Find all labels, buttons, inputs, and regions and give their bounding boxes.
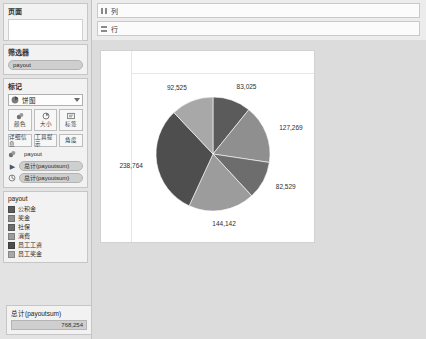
marks-label-label: 标签 — [65, 121, 77, 128]
pie-slice-label: 92,525 — [167, 84, 187, 91]
worksheet-view[interactable]: 83,025127,26982,529144,142238,76492,525 — [100, 50, 315, 243]
legend-item[interactable]: 消费 — [8, 232, 83, 241]
filters-panel: 筛选器 payout — [3, 44, 88, 75]
marks-panel: 标记 饼图 颜色 — [3, 78, 88, 188]
legend-item[interactable]: 员工奖金 — [8, 250, 83, 259]
marks-size-label: 大小 — [40, 121, 52, 128]
legend-item[interactable]: 奖金 — [8, 214, 83, 223]
marks-title: 标记 — [8, 82, 83, 91]
legend-item-label: 社保 — [18, 223, 30, 232]
legend-item-label: 员工工资 — [18, 241, 42, 250]
legend-swatch-icon — [8, 251, 15, 258]
legend-item-label: 员工奖金 — [18, 250, 42, 259]
angle-icon — [8, 174, 17, 182]
rows-shelf-label: 行 — [111, 24, 118, 34]
legend-swatch-icon — [8, 224, 15, 231]
total-value: 768,254 — [11, 320, 87, 330]
pie-slice-label: 127,269 — [279, 124, 303, 131]
filter-pill-payout[interactable]: payout — [8, 60, 83, 70]
marks-card-pill-label[interactable]: ▶ 总计(payoutsum) — [8, 161, 83, 171]
pie-slice-label: 144,142 — [212, 220, 236, 227]
marks-pill-label: payout — [19, 149, 83, 159]
marks-color-label: 颜色 — [14, 121, 26, 128]
marks-angle-label: 角度 — [65, 137, 77, 144]
legend-item[interactable]: 社保 — [8, 223, 83, 232]
label-icon — [67, 112, 75, 120]
marks-detail-button[interactable]: 详细信息 — [8, 134, 32, 147]
pie-slice-label: 82,529 — [276, 183, 296, 190]
color-legend-panel: payout 公积金奖金社保消费员工工资员工奖金 — [3, 191, 88, 263]
marks-pill-label: 总计(payoutsum) — [19, 173, 83, 183]
view-canvas: 83,025127,26982,529144,142238,76492,525 — [92, 40, 426, 339]
marks-tooltip-label: 工具提示 — [35, 134, 57, 148]
filter-pill-label: payout — [13, 61, 31, 70]
mark-type-dropdown[interactable]: 饼图 — [8, 94, 83, 106]
shelf-bar: 列 行 — [92, 0, 426, 40]
mark-buttons-row-2: 详细信息 工具提示 角度 — [8, 134, 83, 147]
legend-item-list: 公积金奖金社保消费员工工资员工奖金 — [8, 205, 83, 259]
marks-pill-label: 总计(payoutsum) — [19, 161, 83, 171]
legend-swatch-icon — [8, 242, 15, 249]
total-measure-card: 总计(payoutsum) 768,254 — [6, 305, 92, 335]
columns-icon — [100, 7, 108, 15]
marks-detail-label: 详细信息 — [9, 134, 31, 148]
legend-item-label: 消费 — [18, 232, 30, 241]
legend-item-label: 公积金 — [18, 205, 36, 214]
pages-shelf-dropzone[interactable] — [8, 19, 83, 41]
total-label: 总计(payoutsum) — [11, 309, 87, 318]
pie-chart[interactable]: 83,025127,26982,529144,142238,76492,525 — [101, 51, 316, 244]
mark-buttons-row-1: 颜色 大小 标签 — [8, 109, 83, 131]
columns-shelf-label: 列 — [111, 6, 118, 16]
label-icon: ▶ — [8, 162, 17, 171]
legend-swatch-icon — [8, 206, 15, 213]
left-sidebar: 页面 筛选器 payout 标记 饼图 — [0, 0, 92, 339]
pages-title: 页面 — [8, 7, 83, 16]
pie-icon — [11, 96, 19, 104]
legend-item[interactable]: 员工工资 — [8, 241, 83, 250]
color-icon — [16, 112, 24, 120]
filters-title: 筛选器 — [8, 48, 83, 57]
pages-panel: 页面 — [3, 3, 88, 41]
marks-card-pill-color[interactable]: payout — [8, 149, 83, 159]
legend-swatch-icon — [8, 233, 15, 240]
size-icon — [42, 112, 50, 120]
columns-shelf[interactable]: 列 — [97, 3, 420, 18]
legend-item-label: 奖金 — [18, 214, 30, 223]
mark-type-label: 饼图 — [22, 95, 36, 105]
rows-icon — [100, 25, 108, 33]
marks-angle-button[interactable]: 角度 — [59, 134, 83, 147]
legend-title: payout — [8, 195, 83, 203]
marks-color-button[interactable]: 颜色 — [8, 109, 32, 131]
marks-tooltip-button[interactable]: 工具提示 — [34, 134, 58, 147]
pie-slice-label: 238,764 — [119, 162, 143, 169]
marks-size-button[interactable]: 大小 — [34, 109, 58, 131]
legend-swatch-icon — [8, 215, 15, 222]
pie-chart-svg[interactable]: 83,025127,26982,529144,142238,76492,525 — [101, 51, 316, 244]
marks-label-button[interactable]: 标签 — [59, 109, 83, 131]
pie-slice-label: 83,025 — [237, 83, 257, 90]
chevron-down-icon[interactable] — [74, 98, 80, 102]
legend-item[interactable]: 公积金 — [8, 205, 83, 214]
color-icon — [8, 150, 17, 158]
tableau-worksheet-window: 页面 筛选器 payout 标记 饼图 — [0, 0, 426, 339]
rows-shelf[interactable]: 行 — [97, 21, 420, 36]
marks-card-pill-angle[interactable]: 总计(payoutsum) — [8, 173, 83, 183]
